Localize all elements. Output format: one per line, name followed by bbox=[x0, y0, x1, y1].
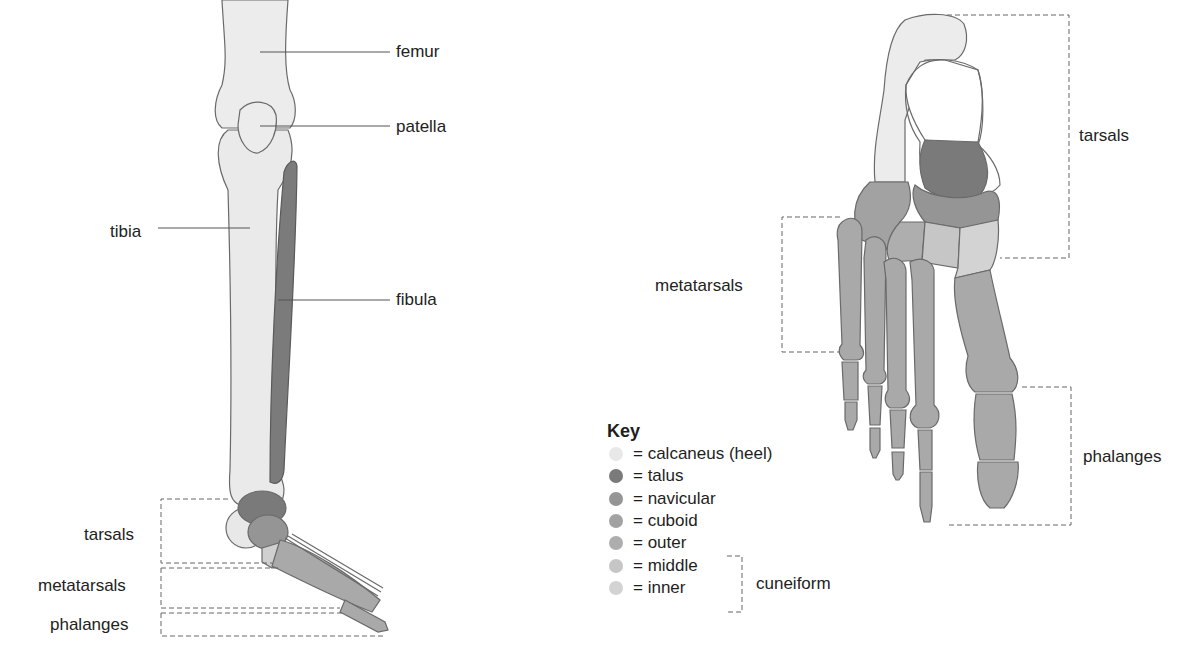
legend-item-label: = outer bbox=[633, 533, 686, 553]
calcaneus-swatch-icon bbox=[609, 447, 623, 461]
label-metatarsals-left: metatarsals bbox=[38, 576, 126, 596]
talus-swatch-icon bbox=[609, 469, 623, 483]
legend-item-navicular: = navicular bbox=[607, 488, 772, 510]
legend-title: Key bbox=[607, 420, 772, 442]
label-tarsals-left: tarsals bbox=[84, 525, 134, 545]
label-phalanges-right: phalanges bbox=[1083, 447, 1161, 467]
legend-item-label: = navicular bbox=[633, 489, 716, 509]
outer-cuneiform-swatch-icon bbox=[609, 536, 623, 550]
legend: Key = calcaneus (heel) = talus = navicul… bbox=[607, 420, 772, 599]
anatomy-illustrations bbox=[0, 0, 1200, 655]
legend-item-label: = cuboid bbox=[633, 511, 698, 531]
talus-lower bbox=[920, 140, 988, 199]
label-fibula: fibula bbox=[396, 290, 437, 310]
foot-diagram bbox=[837, 14, 1018, 522]
label-femur: femur bbox=[396, 42, 439, 62]
legend-item-label: = inner bbox=[633, 578, 685, 598]
inner-cuneiform-swatch-icon bbox=[609, 581, 623, 595]
legend-item-middle: = middle bbox=[607, 554, 772, 576]
leg-diagram bbox=[215, 0, 388, 632]
legend-item-talus: = talus bbox=[607, 465, 772, 487]
label-cuneiform-group: cuneiform bbox=[756, 574, 831, 594]
legend-item-label: = calcaneus (heel) bbox=[633, 444, 772, 464]
label-phalanges-left: phalanges bbox=[50, 615, 128, 635]
legend-item-cuboid: = cuboid bbox=[607, 510, 772, 532]
legend-item-label: = talus bbox=[633, 466, 684, 486]
legend-item-inner: = inner bbox=[607, 577, 772, 599]
legend-item-label: = middle bbox=[633, 556, 698, 576]
label-tibia: tibia bbox=[110, 222, 141, 242]
legend-item-calcaneus: = calcaneus (heel) bbox=[607, 443, 772, 465]
cuboid-swatch-icon bbox=[609, 514, 623, 528]
navicular-swatch-icon bbox=[609, 492, 623, 506]
label-tarsals-right: tarsals bbox=[1079, 126, 1129, 146]
legend-item-outer: = outer bbox=[607, 532, 772, 554]
middle-cuneiform-swatch-icon bbox=[609, 559, 623, 573]
inner-cuneiform bbox=[955, 220, 999, 278]
label-metatarsals-right: metatarsals bbox=[655, 276, 743, 296]
label-patella: patella bbox=[396, 117, 446, 137]
